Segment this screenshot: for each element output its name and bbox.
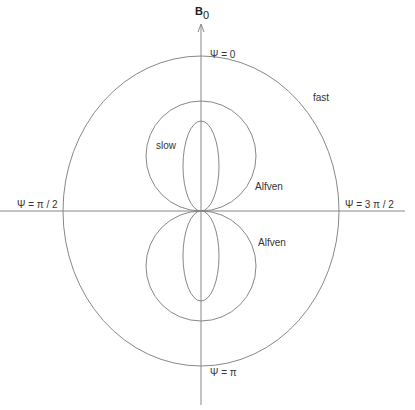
angle-label-bottom: Ψ = π bbox=[210, 367, 237, 378]
alfven-lower-label: Alfven bbox=[258, 237, 286, 248]
b0-subscript: 0 bbox=[203, 9, 209, 21]
angle-label-top: Ψ = 0 bbox=[210, 49, 235, 60]
b0-label-text: B bbox=[195, 5, 203, 17]
angle-label-left: Ψ = π / 2 bbox=[17, 199, 58, 210]
angle-label-right: Ψ = 3 π / 2 bbox=[345, 199, 394, 210]
alfven-upper-label: Alfven bbox=[255, 181, 283, 192]
slow-label: slow bbox=[156, 140, 176, 151]
b0-label: B0 bbox=[195, 5, 209, 17]
fast-label: fast bbox=[313, 92, 329, 103]
